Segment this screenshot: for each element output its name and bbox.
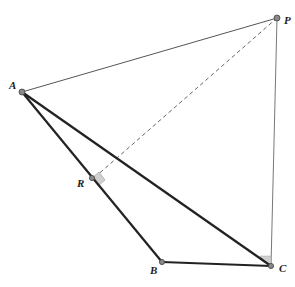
label-A: A <box>8 79 16 91</box>
label-R: R <box>76 177 84 189</box>
segment-AP <box>22 18 277 92</box>
label-P: P <box>284 14 291 26</box>
geometry-diagram: A P R B C <box>0 0 295 287</box>
segment-BC <box>162 262 271 266</box>
point-C[interactable] <box>268 263 273 268</box>
segment-AC <box>22 92 271 266</box>
point-P[interactable] <box>274 15 280 21</box>
label-C: C <box>279 262 287 274</box>
point-A[interactable] <box>19 89 25 95</box>
point-B[interactable] <box>159 259 164 264</box>
segment-PR <box>94 18 277 178</box>
label-B: B <box>149 264 157 276</box>
segment-PC <box>271 18 277 266</box>
point-R[interactable] <box>89 175 94 180</box>
